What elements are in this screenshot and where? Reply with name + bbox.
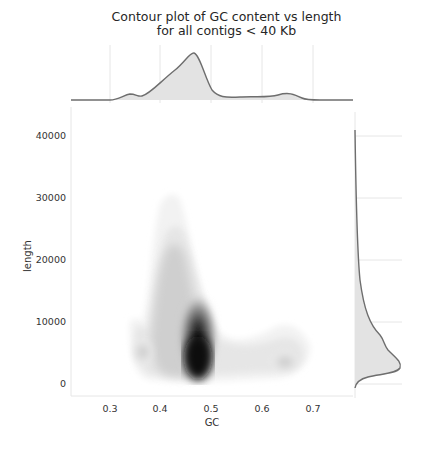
x-tick-0.6: 0.6: [254, 403, 269, 414]
top-marginal-kde: [71, 45, 353, 103]
right-marginal-kde: [355, 112, 402, 398]
jointplot-figure: 40000 30000 20000 10000 0 0.3 0.4 0.5 0.…: [0, 0, 423, 449]
x-tick-0.4: 0.4: [152, 403, 167, 414]
y-tick-0: 0: [60, 378, 66, 389]
x-axis-label: GC: [205, 417, 220, 428]
y-tick-40000: 40000: [36, 130, 66, 141]
y-tick-30000: 30000: [36, 192, 66, 203]
y-tick-20000: 20000: [36, 254, 66, 265]
main-plot-area: 40000 30000 20000 10000 0 0.3 0.4 0.5 0.…: [22, 107, 353, 428]
y-axis-label: length: [22, 240, 33, 272]
y-tick-10000: 10000: [36, 316, 66, 327]
x-tick-0.3: 0.3: [102, 403, 117, 414]
x-tick-0.5: 0.5: [203, 403, 218, 414]
x-tick-0.7: 0.7: [305, 403, 320, 414]
